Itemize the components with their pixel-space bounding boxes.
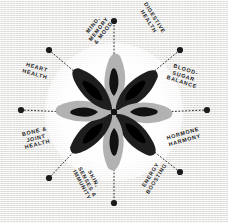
spoke-endpoint-dot-skin-senses-immunity[interactable] [46, 175, 52, 181]
eight-petal-flower-graphic [52, 50, 176, 174]
spoke-line-bone-joint-health [21, 110, 56, 112]
wellness-radial-poster: MIND, MEMORY & MOODDIGESTIVE HEALTHBLOOD… [0, 0, 228, 223]
spoke-endpoint-dot-energy-boosting[interactable] [111, 200, 117, 206]
spoke-endpoint-dot-hormone-harmony[interactable] [177, 169, 183, 175]
spoke-line-blood-sugar-balance [172, 110, 207, 112]
flower-center-dot [111, 108, 117, 114]
spoke-endpoint-dot-digestive-health[interactable] [177, 47, 183, 53]
spoke-endpoint-dot-blood-sugar-balance[interactable] [204, 107, 210, 113]
spoke-endpoint-dot-bone-joint-health[interactable] [18, 107, 24, 113]
